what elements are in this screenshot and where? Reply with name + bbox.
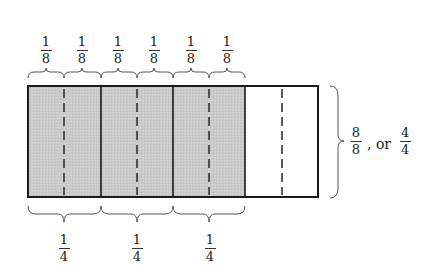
bottom-fraction-label: 14: [200, 234, 220, 263]
eight-eighths-fraction: 88: [346, 127, 366, 156]
numerator: 8: [346, 127, 366, 139]
denominator: 4: [200, 251, 220, 263]
whole-equivalence-label: 88 , or 44: [346, 127, 415, 156]
numerator: 1: [72, 36, 92, 48]
bottom-fraction-label: 14: [54, 234, 74, 263]
denominator: 8: [217, 53, 237, 65]
top-fraction-label: 18: [36, 36, 56, 65]
or-connector: , or: [367, 136, 391, 152]
bottom-braces: [28, 206, 245, 222]
brace-icon: [173, 68, 209, 78]
top-braces: [28, 68, 245, 78]
brace-icon: [64, 68, 101, 78]
brace-icon: [137, 68, 173, 78]
denominator: 8: [36, 53, 56, 65]
brace-icon: [209, 68, 245, 78]
brace-icon: [28, 68, 64, 78]
numerator: 1: [54, 234, 74, 246]
top-fraction-label: 18: [217, 36, 237, 65]
denominator: 4: [395, 144, 415, 156]
numerator: 1: [181, 36, 201, 48]
numerator: 1: [144, 36, 164, 48]
top-fraction-label: 18: [72, 36, 92, 65]
denominator: 8: [346, 144, 366, 156]
denominator: 4: [127, 251, 147, 263]
four-fourths-fraction: 44: [395, 127, 415, 156]
right-brace-icon: [330, 86, 344, 198]
denominator: 8: [181, 53, 201, 65]
bottom-fraction-label: 14: [127, 234, 147, 263]
numerator: 1: [127, 234, 147, 246]
denominator: 8: [72, 53, 92, 65]
top-fraction-label: 18: [144, 36, 164, 65]
denominator: 8: [108, 53, 128, 65]
brace-icon: [173, 206, 245, 222]
brace-icon: [101, 68, 137, 78]
denominator: 8: [144, 53, 164, 65]
numerator: 1: [217, 36, 237, 48]
numerator: 1: [108, 36, 128, 48]
denominator: 4: [54, 251, 74, 263]
top-fraction-label: 18: [181, 36, 201, 65]
numerator: 1: [36, 36, 56, 48]
numerator: 4: [395, 127, 415, 139]
fraction-diagram: 18 18 18 18 18 18 14 14 14 88 , or 44: [0, 0, 446, 267]
top-fraction-label: 18: [108, 36, 128, 65]
numerator: 1: [200, 234, 220, 246]
brace-icon: [101, 206, 173, 222]
brace-icon: [28, 206, 101, 222]
